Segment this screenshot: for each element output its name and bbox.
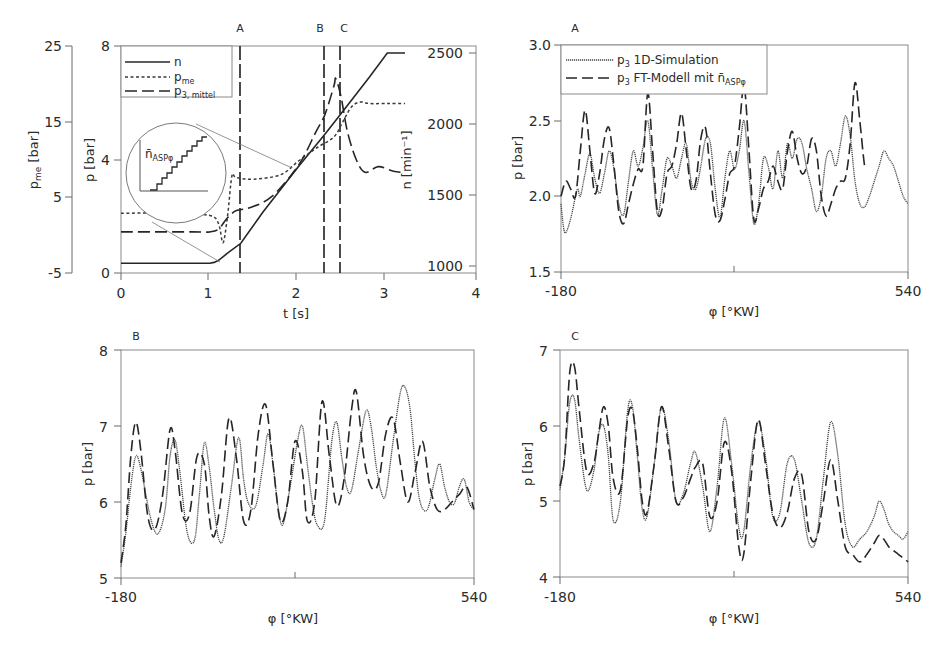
p-tick: 0 bbox=[101, 265, 110, 281]
marker-label-b: B bbox=[316, 22, 324, 35]
chart-a: A 3.0 2.5 2.0 1.5 p [bar] -180 540 φ [°K… bbox=[510, 22, 921, 319]
n-tick: 1500 bbox=[427, 187, 463, 203]
series-ft-line bbox=[121, 389, 474, 562]
series-sim-line bbox=[561, 116, 908, 233]
pme-tick: 5 bbox=[53, 189, 62, 205]
chart-c-ylabel: p [bar] bbox=[520, 442, 535, 486]
t-axis-label: t [s] bbox=[283, 306, 309, 321]
chart-c-title: C bbox=[571, 330, 579, 343]
x-tick: 540 bbox=[895, 283, 922, 299]
y-tick: 2.5 bbox=[529, 113, 551, 129]
chart-a-legend: p3 1D-Simulation p3 FT-Modell mit n̄ASPφ bbox=[561, 45, 767, 94]
y-tick: 5 bbox=[539, 494, 548, 510]
chart-b-xlabel: φ [°KW] bbox=[268, 611, 318, 626]
y-tick: 7 bbox=[539, 343, 548, 359]
y-tick: 2.0 bbox=[529, 188, 551, 204]
y-tick: 1.5 bbox=[529, 264, 551, 280]
x-tick: -180 bbox=[544, 589, 576, 605]
chart-b-frame bbox=[121, 350, 474, 578]
chart-c: C 7 6 5 4 p [bar] -180 540 φ [°KW] bbox=[520, 330, 921, 626]
n-axis-label: n [min⁻¹] bbox=[399, 130, 414, 189]
legend-n: n bbox=[174, 55, 182, 69]
marker-label-c: C bbox=[340, 22, 348, 35]
t-tick: 4 bbox=[472, 285, 481, 301]
x-tick: -180 bbox=[545, 283, 577, 299]
n-tick: 2500 bbox=[427, 45, 463, 61]
x-tick: 540 bbox=[895, 589, 922, 605]
n-tick: 1000 bbox=[427, 258, 463, 274]
y-tick: 4 bbox=[539, 570, 548, 586]
y-tick: 6 bbox=[539, 419, 548, 435]
y-tick: 8 bbox=[99, 343, 108, 359]
series-ft-line bbox=[561, 82, 865, 223]
overview-chart: A B C 25 15 5 -5 pme [bar] 8 4 0 p [bar]… bbox=[26, 22, 481, 321]
figure-canvas: A B C 25 15 5 -5 pme [bar] 8 4 0 p [bar]… bbox=[0, 0, 944, 653]
marker-label-a: A bbox=[236, 22, 244, 35]
overview-legend: n pme p3, mittel bbox=[121, 46, 232, 100]
chart-b-title: B bbox=[132, 330, 140, 343]
chart-b: B 8 7 6 5 p [bar] -180 540 φ [°KW] bbox=[80, 330, 487, 626]
chart-a-ylabel: p [bar] bbox=[510, 136, 525, 180]
chart-b-ylabel: p [bar] bbox=[80, 442, 95, 486]
p-tick: 4 bbox=[101, 152, 110, 168]
y-tick: 3.0 bbox=[529, 37, 551, 53]
p-axis-label: p [bar] bbox=[82, 138, 97, 182]
y-tick: 7 bbox=[99, 419, 108, 435]
t-tick: 2 bbox=[292, 285, 301, 301]
y-tick: 5 bbox=[99, 571, 108, 587]
y-tick: 6 bbox=[99, 495, 108, 511]
pme-tick: -5 bbox=[48, 265, 62, 281]
n-tick: 2000 bbox=[427, 116, 463, 132]
legend-sim: p3 1D-Simulation bbox=[617, 53, 719, 69]
inset-magnifier: n̄ASPφ bbox=[126, 123, 292, 262]
t-tick: 3 bbox=[380, 285, 389, 301]
x-tick: -180 bbox=[105, 589, 137, 605]
pme-tick: 25 bbox=[44, 38, 62, 54]
series-sim-line bbox=[121, 385, 474, 566]
chart-c-xlabel: φ [°KW] bbox=[709, 611, 759, 626]
x-tick: 540 bbox=[461, 589, 488, 605]
series-ft-line bbox=[560, 362, 908, 562]
t-tick: 1 bbox=[204, 285, 213, 301]
t-tick: 0 bbox=[117, 285, 126, 301]
chart-a-title: A bbox=[571, 22, 579, 35]
chart-a-xlabel: φ [°KW] bbox=[709, 304, 759, 319]
pme-tick: 15 bbox=[44, 114, 62, 130]
p-tick: 8 bbox=[101, 38, 110, 54]
pme-axis-label: pme [bar] bbox=[26, 131, 43, 189]
